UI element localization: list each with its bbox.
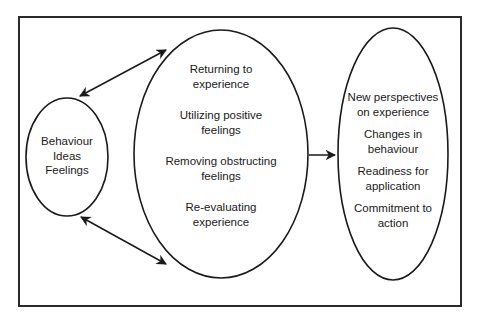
label-behaviour: Behaviour xyxy=(27,134,107,149)
label-returning-to-experience: Returning to experience xyxy=(142,62,300,91)
label-commitment-to-action: Commitment to action xyxy=(340,201,446,230)
label-re-evaluating-experience: Re-evaluating experience xyxy=(142,200,300,229)
label-ideas: Ideas xyxy=(27,149,107,164)
label-feelings: Feelings xyxy=(27,163,107,178)
left-node-labels: Behaviour Ideas Feelings xyxy=(27,134,107,178)
label-changes-in-behaviour: Changes in behaviour xyxy=(340,127,446,156)
right-node-labels: New perspectives on experience Changes i… xyxy=(340,90,446,238)
label-removing-obstructing-feelings: Removing obstructing feelings xyxy=(142,154,300,183)
label-new-perspectives: New perspectives on experience xyxy=(340,90,446,119)
label-utilizing-positive-feelings: Utilizing positive feelings xyxy=(142,108,300,137)
label-readiness-for-application: Readiness for application xyxy=(340,164,446,193)
middle-node-labels: Returning to experience Utilizing positi… xyxy=(142,62,300,246)
